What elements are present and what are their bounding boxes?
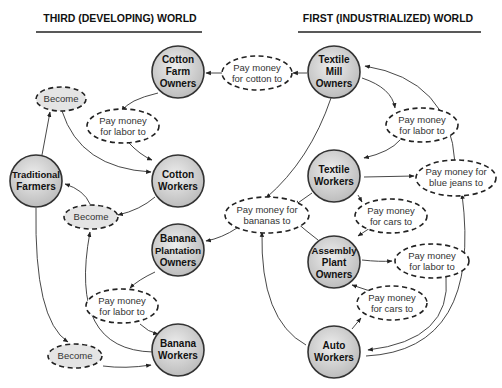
node-label-line1: Assembly — [312, 245, 358, 256]
edge-traditional-farmers-to-become-bottom — [36, 208, 68, 342]
node-label-line2: Workers — [314, 176, 354, 187]
relation-label: Become — [74, 211, 109, 222]
node-label-line1: Textile — [319, 164, 350, 175]
relation-become-bottom: Become — [48, 344, 102, 368]
relation-label-line2: bananas to — [243, 215, 290, 226]
edge-labor-payment-to-banana-workers — [140, 324, 158, 334]
relation-label-line2: for labor to — [100, 126, 145, 137]
edge-auto-workers-to-cars-payment — [352, 318, 361, 329]
node-label-line1: Banana — [160, 338, 197, 349]
node-label-line1: Cotton — [162, 169, 194, 180]
relation-label-line2: for cotton to — [232, 73, 282, 84]
relation-label-line2: for labor to — [409, 261, 454, 272]
relation-label-line2: for cars to — [370, 216, 412, 227]
relation-label-line1: Pay money — [98, 295, 146, 306]
node-label-line2: Mill — [326, 66, 343, 77]
node-label-line1: Cotton — [162, 54, 194, 65]
edge-banana-payment-to-plantation-owners — [206, 228, 237, 241]
relation-labor-bottom-left: Pay money for labor to — [86, 289, 158, 323]
node-label-line3: Owners — [160, 78, 197, 89]
relation-label-line1: Pay money — [368, 292, 416, 303]
node-auto-workers: Auto Workers — [308, 326, 360, 378]
relation-label-line2: for cars to — [371, 303, 413, 314]
node-textile-mill-owners: Textile Mill Owners — [308, 46, 360, 98]
node-textile-workers: Textile Workers — [308, 150, 360, 202]
relation-label-line1: Pay money — [367, 205, 415, 216]
edge-farm-owners-to-labor-payment — [122, 93, 158, 111]
edge-plantation-owners-to-labor-payment — [130, 272, 155, 288]
node-label-line3: Owners — [160, 257, 197, 268]
relation-label-line1: Pay money — [398, 114, 446, 125]
edge-cotton-workers-to-become — [118, 197, 155, 215]
relation-cotton: Pay money for cotton to — [222, 56, 292, 90]
node-banana-plantation-owners: Banana Plantation Owners — [152, 224, 204, 276]
relation-labor-top-left: Pay money for labor to — [87, 109, 159, 143]
node-assembly-plant-owners: Assembly Plant Owners — [308, 236, 360, 288]
relation-labor-lower-right: Pay money for labor to — [395, 244, 469, 278]
relation-become-mid: Become — [64, 205, 118, 229]
relation-cars-upper: Pay money for cars to — [355, 199, 427, 233]
relation-label-line1: Pay money — [233, 62, 281, 73]
node-label-line2: Workers — [158, 350, 198, 361]
third-world-title: THIRD (DEVELOPING) WORLD — [43, 12, 197, 24]
edge-become-bottom-to-banana-workers — [103, 365, 151, 367]
relation-label-line1: Pay money for — [236, 204, 297, 215]
section-title-first-world: FIRST (INDUSTRIALIZED) WORLD — [298, 12, 481, 32]
relation-label-line2: blue jeans to — [429, 177, 483, 188]
section-title-third-world: THIRD (DEVELOPING) WORLD — [36, 12, 202, 32]
node-label-line1: Textile — [319, 54, 350, 65]
node-label-line1: Auto — [323, 340, 346, 351]
relation-cars-lower: Pay money for cars to — [357, 286, 427, 320]
edge-labor-payment-to-cotton-workers — [128, 142, 152, 160]
node-label-line2: Plant — [322, 257, 347, 268]
node-label-line2: Workers — [314, 352, 354, 363]
economic-flow-diagram: THIRD (DEVELOPING) WORLD FIRST (INDUSTRI… — [0, 0, 502, 388]
node-banana-workers: Banana Workers — [152, 324, 204, 376]
first-world-title: FIRST (INDUSTRIALIZED) WORLD — [303, 12, 474, 24]
node-cotton-workers: Cotton Workers — [152, 155, 204, 207]
relation-label: Become — [44, 93, 79, 104]
node-label-line1: Traditional — [12, 169, 60, 180]
node-label-line2: Workers — [158, 181, 198, 192]
edge-auto-workers-to-banana-payment — [262, 232, 306, 345]
relation-become-top: Become — [36, 87, 86, 111]
relation-label: Become — [58, 350, 93, 361]
edge-labor-payment-to-textile-workers — [364, 140, 400, 158]
edge-become-to-traditional-farmers — [65, 184, 90, 204]
relation-label-line2: for labor to — [399, 125, 444, 136]
relation-label-line1: Pay money for — [425, 166, 486, 177]
edge-textile-workers-to-jeans-payment — [364, 176, 414, 177]
edge-textile-mill-to-labor-payment — [362, 78, 395, 108]
relation-label-line1: Pay money — [99, 115, 147, 126]
node-label-line2: Farm — [166, 66, 191, 77]
relation-label-line2: for labor to — [99, 306, 144, 317]
edge-traditional-farmers-to-become — [42, 112, 50, 155]
node-cotton-farm-owners: Cotton Farm Owners — [152, 46, 204, 98]
node-label-line2: Farmers — [16, 181, 56, 192]
node-label-line1: Banana — [160, 233, 197, 244]
node-traditional-farmers: Traditional Farmers — [10, 155, 62, 207]
relation-blue-jeans: Pay money for blue jeans to — [416, 160, 496, 196]
node-label-line3: Owners — [316, 269, 353, 280]
node-label-line3: Owners — [316, 78, 353, 89]
relation-bananas: Pay money for bananas to — [225, 197, 309, 233]
relation-labor-top-right: Pay money for labor to — [386, 108, 458, 142]
node-label-line2: Plantation — [155, 245, 201, 256]
edge-cars-payment-to-assembly-owners-lower — [352, 285, 370, 291]
edge-cars-payment-to-assembly-owners — [358, 228, 370, 236]
edge-textile-workers-to-cars-payment — [358, 195, 362, 202]
relation-label-line1: Pay money — [408, 250, 456, 261]
edge-assembly-owners-to-labor-payment — [362, 260, 392, 261]
